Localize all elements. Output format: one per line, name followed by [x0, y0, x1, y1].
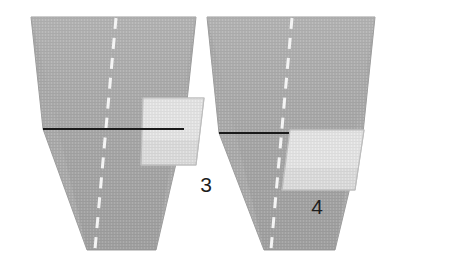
panel-right-label: 4: [311, 195, 323, 218]
panel-left-label: 3: [200, 173, 212, 196]
diagram-canvas: 3 4: [0, 0, 452, 268]
panel-right-patch-highlight: [285, 130, 364, 168]
panel-left-patch-highlight: [142, 98, 204, 140]
panel-diagram-scene: 3 4: [0, 0, 452, 268]
